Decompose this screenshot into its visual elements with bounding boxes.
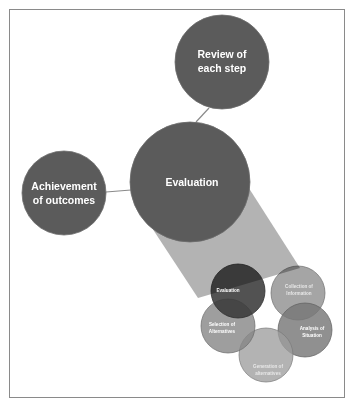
node-review-of-each-step[interactable]: Review of each step [175, 15, 269, 109]
connector-review-to-evaluation [196, 108, 209, 122]
node-evaluation-main[interactable]: Evaluation [130, 122, 250, 242]
cluster-decision-cycle: Evaluation Collection of Information Ana… [201, 264, 332, 382]
petal-evaluation-small-label: Evaluation [216, 288, 239, 293]
petal-collection-of-information-label-line2: Information [286, 291, 311, 296]
petal-generation-of-alternatives-label-line2: alternatives [255, 371, 281, 376]
petal-analysis-of-situation-label-line2: Situation [302, 333, 322, 338]
diagram-canvas: Review of each step Evaluation Achieveme… [0, 0, 356, 413]
diagram-svg: Review of each step Evaluation Achieveme… [0, 0, 356, 413]
connector-achievement-to-evaluation [106, 190, 131, 192]
node-achievement-label-line2: of outcomes [33, 194, 96, 206]
node-review-label-line2: each step [198, 62, 246, 74]
node-achievement-of-outcomes[interactable]: Achievement of outcomes [22, 151, 106, 235]
petal-generation-of-alternatives-label-line1: Generation of [253, 364, 283, 369]
node-evaluation-label: Evaluation [165, 176, 218, 188]
petal-collection-of-information-label-line1: Collection of [285, 284, 313, 289]
petal-analysis-of-situation-label-line1: Analysis of [300, 326, 325, 331]
node-achievement-label-line1: Achievement [31, 180, 97, 192]
node-achievement-circle [22, 151, 106, 235]
petal-selection-of-alternatives-label-line2: Alternatives [209, 329, 236, 334]
node-review-label-line1: Review of [197, 48, 247, 60]
petal-selection-of-alternatives-label-line1: Selection of [209, 322, 236, 327]
